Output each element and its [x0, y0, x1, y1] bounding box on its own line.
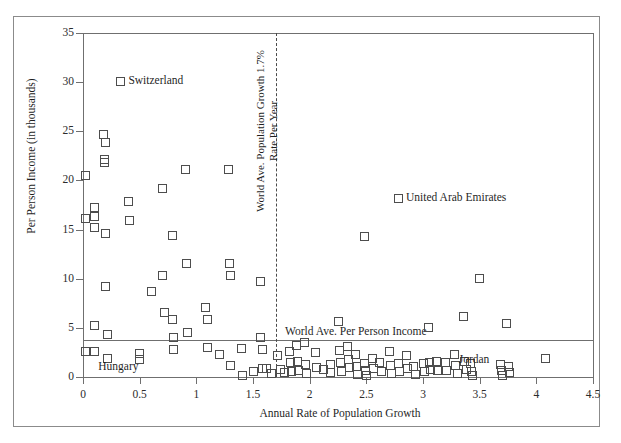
growth-label-line2: Rate Per Year [267, 16, 280, 246]
x-tick-label-text: 4.5 [568, 388, 618, 401]
data-point-marker [385, 347, 394, 356]
data-point-marker [90, 203, 99, 212]
data-point-marker [81, 214, 90, 223]
data-point-marker [258, 345, 267, 354]
data-point-marker [238, 371, 247, 380]
scatter-plot-figure: 05101520253035 00.511.522.533.544.5 Per … [0, 0, 621, 443]
data-point-marker [505, 368, 514, 377]
data-point-marker [300, 338, 309, 347]
x-tick-label: 3.5 [455, 388, 505, 402]
data-point-marker [302, 369, 311, 378]
data-point-marker [181, 165, 190, 174]
y-tick-label-text: 0 [34, 371, 74, 382]
world-average-income-label: World Ave. Per Person Income [285, 325, 427, 337]
data-point-marker [301, 360, 310, 369]
y-tick-label-text: 35 [34, 27, 74, 38]
x-axis-label: Annual Rate of Population Growth [180, 407, 500, 419]
x-tick-mark [253, 377, 254, 384]
data-point-marker [125, 216, 134, 225]
data-point-marker [432, 357, 441, 366]
x-tick-label: 2 [285, 388, 335, 402]
x-tick-label: 4 [511, 388, 561, 402]
data-point-marker [182, 259, 191, 268]
data-point-marker [224, 165, 233, 174]
data-point-marker [475, 274, 484, 283]
growth-label-line1: World Ave. Population Growth 1.7% [254, 50, 266, 212]
data-point-marker [375, 358, 384, 367]
data-point-marker [226, 271, 235, 280]
data-point-marker [424, 323, 433, 332]
data-point-marker [256, 333, 265, 342]
data-point-marker [90, 212, 99, 221]
data-point-marker [377, 367, 386, 376]
annotation-marker-swatch [394, 194, 403, 203]
data-point-marker [402, 351, 411, 360]
data-point-marker [442, 366, 451, 375]
data-point-marker [101, 138, 110, 147]
data-point-marker [101, 229, 110, 238]
data-point-marker [541, 354, 550, 363]
data-point-marker [124, 197, 133, 206]
data-point-marker [351, 350, 360, 359]
data-point-marker [101, 282, 110, 291]
y-tick-label: 35 [28, 27, 74, 39]
x-tick-label-text: 3 [398, 388, 448, 401]
y-tick-label-text: 20 [34, 174, 74, 185]
data-point-marker [411, 370, 420, 379]
data-point-marker [100, 158, 109, 167]
data-point-marker [203, 315, 212, 324]
data-point-marker [203, 343, 212, 352]
x-tick-label-text: 3.5 [455, 388, 505, 401]
y-tick-label-text: 5 [34, 322, 74, 333]
data-point-marker [249, 367, 258, 376]
x-tick-label-text: 1.5 [228, 388, 278, 401]
annotation-marker-swatch [116, 77, 125, 86]
data-point-marker [237, 344, 246, 353]
y-tick-label: 0 [28, 371, 74, 383]
data-point-marker [226, 361, 235, 370]
y-tick-label: 5 [28, 322, 74, 334]
x-tick-label: 1 [171, 388, 221, 402]
data-point-marker [468, 371, 477, 380]
y-tick-label-text: 25 [34, 125, 74, 136]
x-tick-label-text: 4 [511, 388, 561, 401]
data-point-marker [168, 315, 177, 324]
data-point-marker [267, 369, 276, 378]
data-point-marker [158, 184, 167, 193]
x-axis-line [83, 377, 594, 378]
data-point-marker [311, 348, 320, 357]
x-tick-label-text: 0 [58, 388, 108, 401]
data-point-marker [169, 333, 178, 342]
x-tick-label: 0.5 [115, 388, 165, 402]
data-point-marker [168, 231, 177, 240]
data-point-marker [433, 366, 442, 375]
x-tick-mark [83, 377, 84, 384]
data-point-marker [90, 321, 99, 330]
data-point-marker [334, 317, 343, 326]
x-tick-mark [196, 377, 197, 384]
data-point-marker [90, 223, 99, 232]
data-point-marker [90, 347, 99, 356]
x-tick-mark [140, 377, 141, 384]
x-tick-label: 1.5 [228, 388, 278, 402]
x-tick-label-text: 1 [171, 388, 221, 401]
y-tick-label-text: 10 [34, 273, 74, 284]
annotation-label: United Arab Emirates [406, 191, 506, 203]
data-point-marker [225, 259, 234, 268]
x-tick-label-text: 2.5 [341, 388, 391, 401]
annotation-label: Hungary [98, 360, 138, 372]
data-point-marker [201, 303, 210, 312]
data-point-marker [273, 351, 282, 360]
annotation-label: Switzerland [128, 74, 183, 86]
data-point-marker [326, 368, 335, 377]
data-point-marker [256, 277, 265, 286]
x-tick-mark [310, 377, 311, 384]
data-point-marker [158, 271, 167, 280]
plot-area: World Ave. Per Person Income World Ave. … [83, 33, 593, 377]
plot-right-border [593, 33, 594, 378]
x-tick-mark [423, 377, 424, 384]
data-point-marker [502, 319, 511, 328]
x-tick-label: 2.5 [341, 388, 391, 402]
data-point-marker [81, 347, 90, 356]
x-tick-label-text: 2 [285, 388, 335, 401]
